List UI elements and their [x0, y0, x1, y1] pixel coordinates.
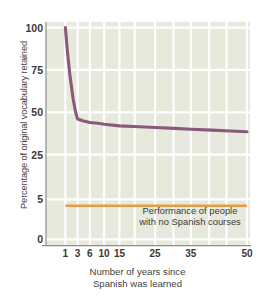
x-axis-tick-label: 1 [63, 249, 69, 259]
x-axis-tick-labels: 1361015253550 [46, 249, 250, 263]
x-axis-title: Number of years since Spanish was learne… [30, 266, 245, 290]
x-axis-tick-label: 3 [75, 249, 81, 259]
y-axis-tick-labels: 10075502550 [0, 22, 43, 245]
plot-area: Performance of people with no Spanish co… [46, 22, 250, 245]
y-axis-tick-label: 100 [3, 23, 43, 34]
x-axis-title-line-1: Number of years since [30, 266, 245, 278]
x-axis-tick-label: 25 [150, 249, 161, 259]
vertical-gridlines [65, 22, 247, 245]
y-axis-tick-label: 5 [3, 194, 43, 205]
x-axis-tick-label: 35 [185, 249, 196, 259]
x-axis-tick-label: 50 [241, 249, 252, 259]
plot-svg [46, 22, 250, 245]
y-axis-tick-label: 0 [3, 234, 43, 245]
y-axis-tick-label: 50 [3, 107, 43, 118]
y-axis-tick-label: 75 [3, 65, 43, 76]
forgetting-curve-chart: Percentage of original vocabulary retain… [0, 0, 258, 301]
x-axis-tick-label: 10 [99, 249, 110, 259]
x-axis-tick-label: 15 [114, 249, 125, 259]
y-axis-tick-label: 25 [3, 150, 43, 161]
x-axis-tick-label: 6 [87, 249, 93, 259]
x-axis-title-line-2: Spanish was learned [30, 278, 245, 290]
